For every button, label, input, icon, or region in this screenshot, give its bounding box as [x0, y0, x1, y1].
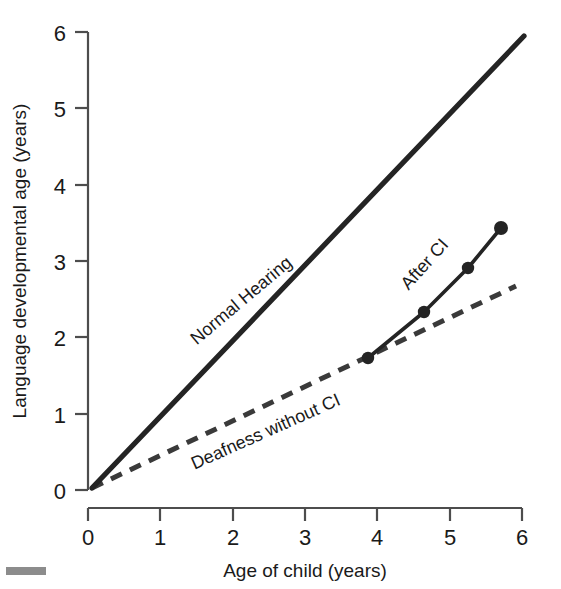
y-tick-label-1: 1: [54, 403, 66, 428]
x-tick-label-6: 6: [516, 525, 528, 550]
x-tick-label-5: 5: [444, 525, 456, 550]
x-tick-label-2: 2: [227, 525, 239, 550]
y-tick-label-5: 5: [54, 97, 66, 122]
x-axis-title: Age of child (years): [223, 560, 387, 581]
after-ci-marker-2: [418, 306, 430, 318]
y-tick-label-0: 0: [54, 479, 66, 504]
x-tick-label-1: 1: [154, 525, 166, 550]
x-tick-label-0: 0: [82, 525, 94, 550]
x-tick-label-4: 4: [371, 525, 383, 550]
y-tick-label-6: 6: [54, 21, 66, 46]
y-tick-label-3: 3: [54, 250, 66, 275]
after-ci-marker-3: [462, 262, 474, 274]
x-tick-label-3: 3: [299, 525, 311, 550]
y-axis-title: Language developmental age (years): [9, 104, 30, 419]
y-tick-label-2: 2: [54, 326, 66, 351]
corner-marker-bar: [6, 567, 46, 575]
after-ci-marker-1: [362, 352, 374, 364]
language-development-chart: 6 5 4 3 2 1 0 0 1 2 3 4 5 6 Age of child…: [0, 0, 561, 589]
after-ci-marker-4: [494, 221, 508, 235]
y-tick-label-4: 4: [54, 174, 66, 199]
